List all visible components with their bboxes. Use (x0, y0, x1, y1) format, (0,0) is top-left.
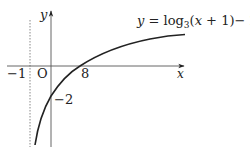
x-intercept-label: 8 (81, 66, 89, 81)
y-axis-label: y (39, 7, 48, 22)
log-graph: y x O −1 8 −2 y = log3(x + 1)− 2 (0, 0, 250, 155)
origin-label: O (37, 66, 48, 81)
y-intercept-label: −2 (54, 92, 73, 107)
equation-eq: = log (144, 13, 183, 28)
equation-label: y = log3(x + 1)− 2 (136, 13, 250, 30)
log-curve (35, 35, 185, 146)
x-axis-label: x (177, 67, 184, 81)
equation-tail: + 1)− 2 (202, 13, 250, 28)
asymptote-label: −1 (7, 66, 26, 81)
